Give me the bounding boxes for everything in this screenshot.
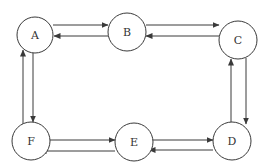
node-c-label: C [234,34,242,47]
node-e-label: E [130,136,138,149]
node-e: E [115,123,153,161]
node-f: F [12,122,50,160]
node-a: A [17,17,53,53]
graph-diagram: A B C D E F [0,0,268,165]
node-f-label: F [27,135,35,148]
node-d: D [213,122,251,160]
node-a-label: A [30,29,40,42]
node-d-label: D [228,135,237,148]
node-b: B [108,13,146,51]
node-c: C [219,21,257,59]
node-b-label: B [123,26,131,39]
